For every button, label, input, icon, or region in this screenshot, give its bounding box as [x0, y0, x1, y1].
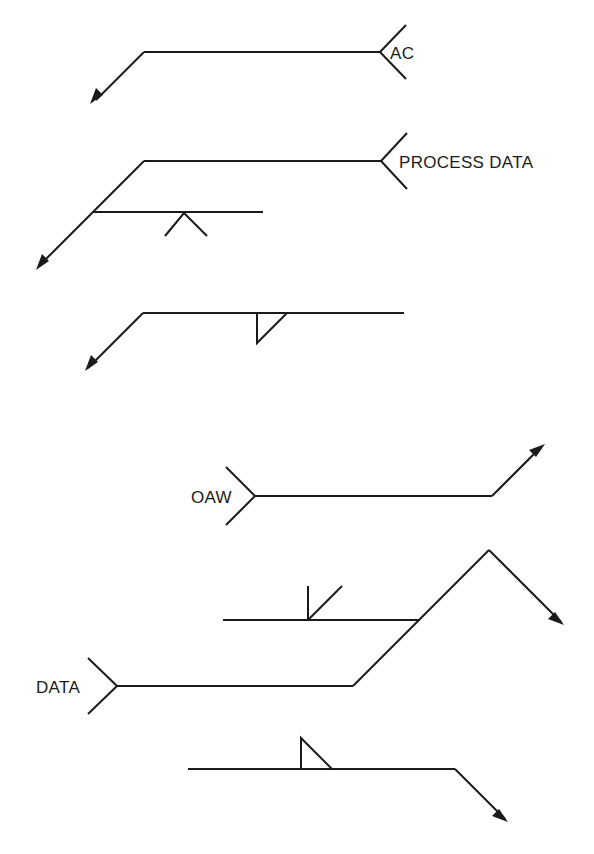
process-data-weld-symbol: PROCESS DATA: [36, 133, 534, 270]
oaw-weld-symbol: OAW: [191, 444, 545, 525]
tail-lower: [88, 686, 117, 714]
v-groove-symbol-icon: [165, 213, 207, 236]
arrow-leader: [96, 52, 144, 100]
welding-symbols-diagram: AC PROCESS DATA OAW DATA: [0, 0, 594, 854]
connecting-leader: [353, 550, 489, 686]
arrowhead-icon: [492, 809, 508, 822]
fillet-symbol-icon: [257, 313, 287, 343]
arrowhead-icon: [548, 612, 564, 625]
tail-upper: [88, 658, 117, 686]
ac-label: AC: [390, 44, 414, 63]
arrow-leader: [489, 550, 561, 622]
bevel-symbol-diagonal: [308, 586, 342, 620]
oaw-label: OAW: [191, 488, 232, 507]
arrowhead-icon: [85, 355, 98, 371]
ac-weld-symbol: AC: [90, 25, 414, 104]
process-data-label: PROCESS DATA: [399, 153, 534, 172]
fillet-other-side-weld-symbol: [188, 738, 508, 822]
arrow-leader: [88, 313, 143, 368]
fillet-symbol-icon: [301, 738, 332, 769]
data-label: DATA: [36, 678, 80, 697]
arrowhead-icon: [90, 88, 103, 104]
arrowhead-icon: [529, 444, 545, 457]
fillet-arrow-side-weld-symbol: [85, 313, 404, 371]
arrowhead-icon: [36, 254, 49, 270]
data-weld-symbol: DATA: [36, 550, 564, 714]
